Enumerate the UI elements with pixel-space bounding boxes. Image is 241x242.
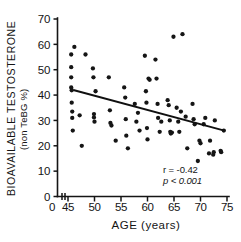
data-point xyxy=(203,116,207,120)
data-point xyxy=(124,133,128,137)
x-tick-label: 75 xyxy=(221,201,233,213)
data-point xyxy=(70,109,74,113)
data-point xyxy=(92,120,96,124)
x-axis-group: 45505560657075 0 xyxy=(49,193,233,213)
data-point xyxy=(123,95,127,99)
y-tick-label: 10 xyxy=(38,165,50,177)
data-point xyxy=(71,128,75,132)
pvalue-annotation: p < 0.001 xyxy=(162,175,202,186)
data-point xyxy=(70,88,74,92)
data-point xyxy=(78,113,82,117)
data-point xyxy=(144,101,148,105)
data-point xyxy=(171,35,175,39)
data-point xyxy=(155,102,159,106)
y-axis-sublabel: (non TeBG %) xyxy=(18,89,29,150)
y-tick-label: 40 xyxy=(38,89,50,101)
y-axis-label: BIOAVAILABLE TESTOSTERONE xyxy=(5,21,17,196)
data-point xyxy=(144,89,148,93)
data-point xyxy=(91,75,95,79)
data-point xyxy=(212,150,216,154)
x-tick-label: 55 xyxy=(115,201,127,213)
data-point xyxy=(134,120,138,124)
data-point xyxy=(196,159,200,163)
data-point xyxy=(184,114,188,118)
statistics-annotation: r = -0.42 p < 0.001 xyxy=(162,164,202,186)
data-point xyxy=(153,57,157,61)
data-point xyxy=(83,52,87,56)
data-point xyxy=(180,32,184,36)
y-tick-labels: 010203040506070 xyxy=(38,13,50,203)
data-point xyxy=(114,139,118,143)
data-point xyxy=(72,45,76,49)
data-point xyxy=(167,103,171,107)
data-points-group xyxy=(69,32,226,163)
data-point xyxy=(80,144,84,148)
data-point xyxy=(137,128,141,132)
x-tick-label: 60 xyxy=(141,201,153,213)
y-tick-label: 70 xyxy=(38,13,50,25)
data-point xyxy=(70,116,74,120)
x-tick-label: 65 xyxy=(168,201,180,213)
data-point xyxy=(124,117,128,121)
data-point xyxy=(122,85,126,89)
y-tick-label: 60 xyxy=(38,39,50,51)
data-point xyxy=(109,123,113,127)
data-point xyxy=(91,66,95,70)
data-point xyxy=(207,151,211,155)
x-axis-label: AGE (years) xyxy=(112,219,181,231)
data-point xyxy=(156,116,160,120)
data-point xyxy=(158,130,162,134)
data-point xyxy=(92,115,96,119)
data-point xyxy=(70,101,74,105)
x-tick-labels: 45505560657075 xyxy=(62,201,233,213)
data-point xyxy=(107,75,111,79)
data-point xyxy=(165,98,169,102)
data-point xyxy=(145,126,149,130)
data-point xyxy=(108,108,112,112)
data-point xyxy=(175,106,179,110)
y-tick-label: 50 xyxy=(38,64,50,76)
x-tick-label: 45 xyxy=(62,201,74,213)
correlation-annotation: r = -0.42 xyxy=(163,164,198,175)
y-tick-label: 30 xyxy=(38,115,50,127)
data-point xyxy=(190,102,194,106)
data-point xyxy=(69,65,73,69)
data-point xyxy=(198,141,202,145)
data-point xyxy=(154,76,158,80)
x-origin-label: 0 xyxy=(49,201,55,213)
data-point xyxy=(219,150,223,154)
data-point xyxy=(170,130,174,134)
data-point xyxy=(93,89,97,93)
scatter-chart-figure: 010203040506070 45505560657075 0 BIOAVAI… xyxy=(0,0,241,242)
data-point xyxy=(126,146,130,150)
data-point xyxy=(208,139,212,143)
data-point xyxy=(69,75,73,79)
data-point xyxy=(147,78,151,82)
data-point xyxy=(143,54,147,58)
x-tick-label: 50 xyxy=(88,201,100,213)
chart-canvas: 010203040506070 45505560657075 0 BIOAVAI… xyxy=(0,0,241,242)
regression-trend-line xyxy=(73,90,224,131)
data-point xyxy=(136,111,140,115)
data-point xyxy=(176,120,180,124)
data-point xyxy=(179,109,183,113)
data-point xyxy=(69,52,73,56)
data-point xyxy=(185,146,189,150)
data-point xyxy=(213,118,217,122)
data-point xyxy=(168,118,172,122)
y-axis-group: 010203040506070 xyxy=(38,13,58,203)
y-axis-label-group: BIOAVAILABLE TESTOSTERONE (non TeBG %) xyxy=(5,21,29,196)
data-point xyxy=(159,120,163,124)
data-point xyxy=(191,117,195,121)
data-point xyxy=(145,137,149,141)
data-point xyxy=(177,130,181,134)
y-tick-label: 20 xyxy=(38,140,50,152)
x-tick-label: 70 xyxy=(194,201,206,213)
